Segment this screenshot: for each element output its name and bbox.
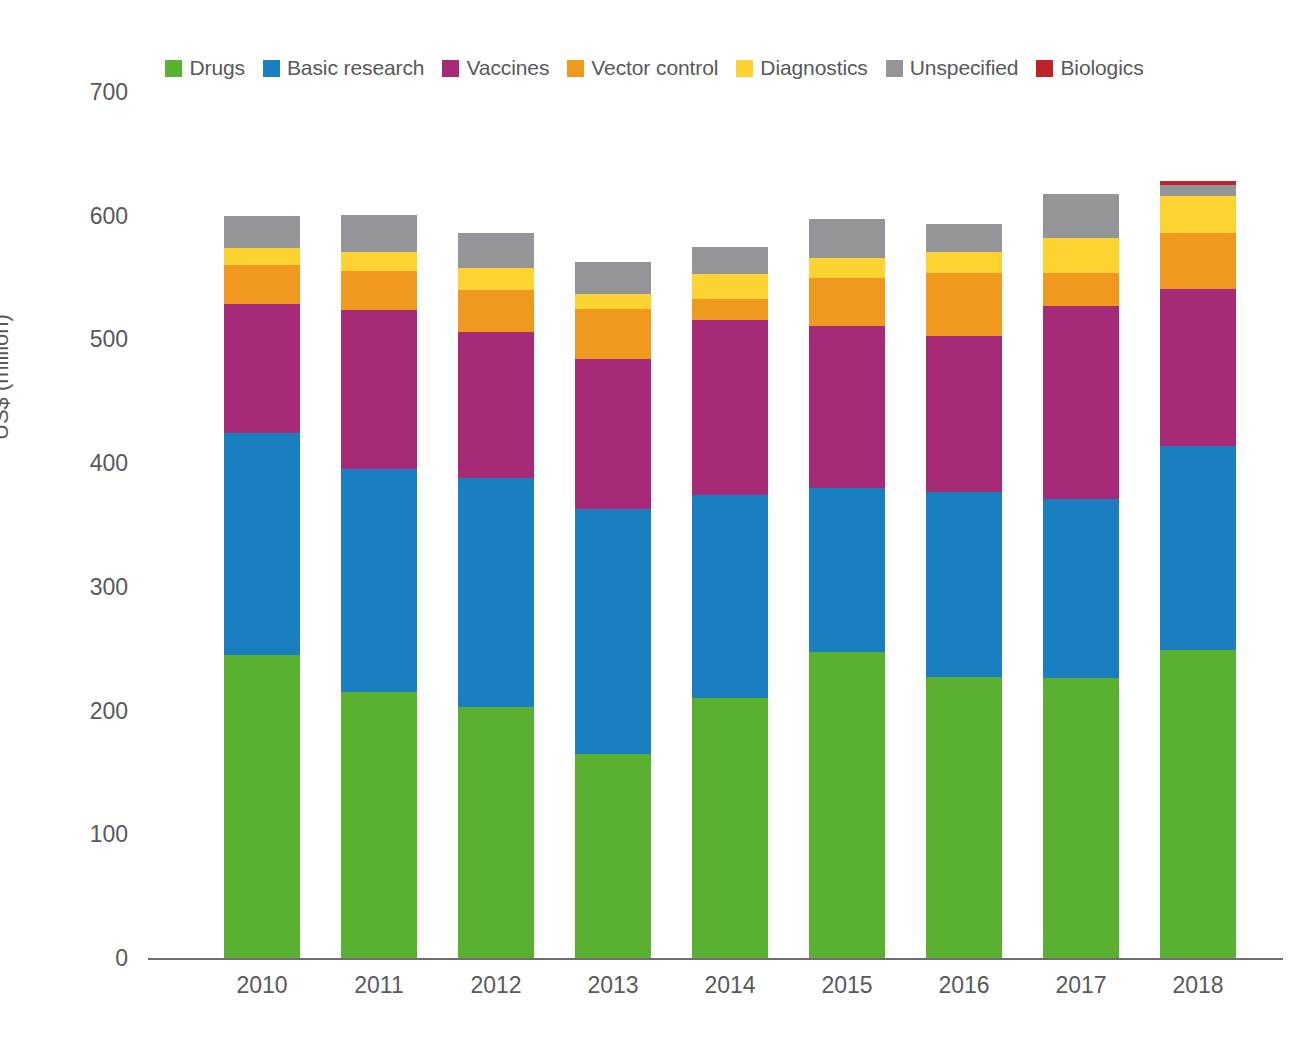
legend-item-unspecified[interactable]: Unspecified [886,56,1019,80]
bar-segment-basic-research[interactable] [809,488,885,653]
bar-2016[interactable] [926,224,1002,958]
bar-segment-drugs[interactable] [692,698,768,958]
bar-segment-unspecified[interactable] [1043,194,1119,239]
bar-segment-vaccines[interactable] [1160,289,1236,446]
legend-label: Drugs [189,56,245,80]
legend-swatch-icon [886,60,903,77]
bar-segment-drugs[interactable] [341,692,417,958]
legend-swatch-icon [442,60,459,77]
legend-swatch-icon [1036,60,1053,77]
bar-segment-drugs[interactable] [926,677,1002,958]
legend-label: Vaccines [466,56,549,80]
bar-segment-unspecified[interactable] [575,262,651,294]
bar-segment-basic-research[interactable] [1043,499,1119,678]
legend-swatch-icon [263,60,280,77]
bar-segment-basic-research[interactable] [575,509,651,754]
legend-swatch-icon [567,60,584,77]
bar-segment-basic-research[interactable] [458,478,534,707]
bar-segment-basic-research[interactable] [692,495,768,698]
bar-segment-diagnostics[interactable] [926,252,1002,273]
x-axis-tick-label-2016: 2016 [904,972,1024,999]
bar-segment-basic-research[interactable] [341,469,417,692]
legend-label: Basic research [287,56,425,80]
bar-segment-vector-control[interactable] [692,299,768,320]
bar-2012[interactable] [458,233,534,958]
bar-segment-basic-research[interactable] [224,433,300,654]
bar-segment-unspecified[interactable] [458,233,534,268]
bar-segment-vector-control[interactable] [1160,233,1236,289]
chart-legend: DrugsBasic researchVaccinesVector contro… [0,56,1309,80]
bar-segment-vaccines[interactable] [809,326,885,488]
bar-2014[interactable] [692,247,768,958]
bar-2013[interactable] [575,262,651,958]
bar-2017[interactable] [1043,194,1119,959]
bar-segment-basic-research[interactable] [1160,446,1236,650]
bar-segment-unspecified[interactable] [224,216,300,248]
bar-segment-diagnostics[interactable] [809,258,885,278]
bar-segment-vaccines[interactable] [575,359,651,509]
bar-segment-diagnostics[interactable] [575,294,651,309]
y-axis-tick-label: 200 [8,697,128,724]
legend-item-vaccines[interactable]: Vaccines [442,56,549,80]
x-axis-tick-label-2018: 2018 [1138,972,1258,999]
bar-segment-drugs[interactable] [575,754,651,958]
x-axis-tick-label-2013: 2013 [553,972,673,999]
legend-label: Unspecified [910,56,1019,80]
legend-item-basic-research[interactable]: Basic research [263,56,425,80]
legend-item-drugs[interactable]: Drugs [165,56,245,80]
plot-area: 0100200300400500600700 [148,92,1283,958]
bar-segment-vector-control[interactable] [809,278,885,326]
bar-segment-basic-research[interactable] [926,492,1002,678]
bar-segment-vector-control[interactable] [458,290,534,332]
bar-segment-vaccines[interactable] [1043,306,1119,499]
bar-segment-drugs[interactable] [1160,650,1236,958]
bar-segment-vector-control[interactable] [224,265,300,303]
bar-segment-unspecified[interactable] [692,247,768,274]
bar-segment-vaccines[interactable] [341,310,417,470]
legend-label: Biologics [1060,56,1143,80]
legend-item-vector-control[interactable]: Vector control [567,56,718,80]
bar-segment-diagnostics[interactable] [692,274,768,299]
bar-segment-vector-control[interactable] [575,309,651,360]
legend-item-diagnostics[interactable]: Diagnostics [736,56,867,80]
y-axis-tick-label: 0 [8,945,128,972]
bar-segment-drugs[interactable] [458,707,534,958]
legend-label: Diagnostics [760,56,867,80]
bar-segment-vector-control[interactable] [1043,273,1119,306]
x-axis-tick-label-2011: 2011 [319,972,439,999]
bar-segment-unspecified[interactable] [809,219,885,257]
bar-segment-diagnostics[interactable] [1160,196,1236,233]
y-axis-tick-label: 300 [8,573,128,600]
bar-segment-vaccines[interactable] [224,304,300,434]
bar-segment-unspecified[interactable] [341,215,417,252]
bar-segment-drugs[interactable] [1043,678,1119,958]
bar-segment-vaccines[interactable] [692,320,768,496]
legend-swatch-icon [165,60,182,77]
bar-2018[interactable] [1160,181,1236,958]
bar-segment-vaccines[interactable] [458,332,534,478]
bar-segment-vector-control[interactable] [926,273,1002,336]
x-axis-tick-label-2010: 2010 [202,972,322,999]
x-axis-tick-label-2012: 2012 [436,972,556,999]
legend-label: Vector control [591,56,718,80]
bar-segment-vector-control[interactable] [341,271,417,309]
bar-segment-unspecified[interactable] [926,224,1002,251]
x-axis-tick-label-2015: 2015 [787,972,907,999]
y-axis-tick-label: 500 [8,326,128,353]
bar-2010[interactable] [224,216,300,958]
y-axis-tick-label: 600 [8,202,128,229]
x-axis-tick-label-2014: 2014 [670,972,790,999]
bar-segment-diagnostics[interactable] [224,248,300,265]
x-axis-tick-label-2017: 2017 [1021,972,1141,999]
bar-segment-diagnostics[interactable] [341,252,417,272]
bar-segment-vaccines[interactable] [926,336,1002,492]
y-axis-tick-label: 400 [8,450,128,477]
bar-segment-unspecified[interactable] [1160,185,1236,196]
bar-2011[interactable] [341,215,417,958]
bar-segment-drugs[interactable] [809,652,885,958]
bar-segment-diagnostics[interactable] [1043,238,1119,273]
legend-item-biologics[interactable]: Biologics [1036,56,1143,80]
bar-2015[interactable] [809,219,885,958]
bar-segment-drugs[interactable] [224,655,300,958]
bar-segment-diagnostics[interactable] [458,268,534,290]
